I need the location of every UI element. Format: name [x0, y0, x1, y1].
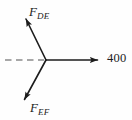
vector-label-f-ef-symbol: F: [30, 100, 38, 115]
vector-arrow-f-ef: [25, 60, 47, 100]
vector-label-magnitude-400: 400: [107, 52, 127, 65]
vector-label-f-de: FDE: [29, 3, 49, 21]
vector-label-f-ef-subscript: EF: [38, 107, 49, 117]
vector-label-f-ef: FEF: [30, 99, 49, 117]
vector-label-f-de-subscript: DE: [37, 11, 49, 21]
vector-label-f-de-symbol: F: [29, 4, 37, 19]
vector-arrow-f-de: [26, 19, 46, 60]
force-vector-diagram: FDE FEF 400: [0, 0, 132, 120]
